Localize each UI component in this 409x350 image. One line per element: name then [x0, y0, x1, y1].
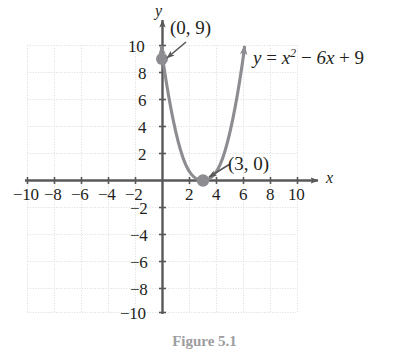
equation-op1: − — [301, 47, 312, 68]
x-tick-label-6: 6 — [239, 186, 247, 203]
x-tick-label-4: 4 — [212, 186, 220, 203]
x-tick-label-neg2: −2 — [125, 186, 143, 203]
vertex-point-marker — [197, 174, 209, 186]
equation-label: y = x2 − 6x + 9 — [253, 48, 364, 67]
x-tick-label-2: 2 — [185, 186, 193, 203]
x-tick-label-neg6: −6 — [71, 186, 89, 203]
y-tick-label-2: 2 — [138, 146, 146, 163]
annotation-leader-0-9 — [167, 42, 186, 58]
equation-relation: = — [266, 47, 277, 68]
y-tick-label-neg4: −4 — [130, 227, 148, 244]
x-tick-label-neg10: −10 — [13, 186, 39, 203]
x-tick-label-8: 8 — [266, 186, 274, 203]
y-tick-label-6: 6 — [138, 92, 146, 109]
figure-caption: Figure 5.1 — [0, 333, 409, 350]
y-tick-label-neg8: −8 — [130, 281, 148, 298]
x-axis-label: x — [326, 170, 333, 186]
x-tick-label-10: 10 — [288, 186, 304, 203]
y-axis-label: y — [155, 3, 162, 19]
x-tick-label-neg4: −4 — [98, 186, 116, 203]
y-tick-label-neg10: −10 — [120, 305, 146, 322]
annotation-label-vertex: (3, 0) — [228, 154, 269, 173]
equation-term1-base: x — [282, 47, 290, 68]
y-tick-label-8: 8 — [138, 65, 146, 82]
equation-term2: 6x — [316, 47, 334, 68]
y-intercept-point-marker — [156, 53, 168, 65]
x-tick-label-neg8: −8 — [44, 186, 62, 203]
equation-term3: 9 — [355, 47, 365, 68]
annotation-label-y-intercept: (0, 9) — [170, 18, 211, 37]
y-tick-label-10: 10 — [128, 38, 144, 55]
parabola-arrow-right — [243, 46, 244, 56]
equation-op2: + — [339, 47, 350, 68]
y-tick-label-4: 4 — [138, 119, 146, 136]
y-tick-label-neg6: −6 — [130, 254, 148, 271]
